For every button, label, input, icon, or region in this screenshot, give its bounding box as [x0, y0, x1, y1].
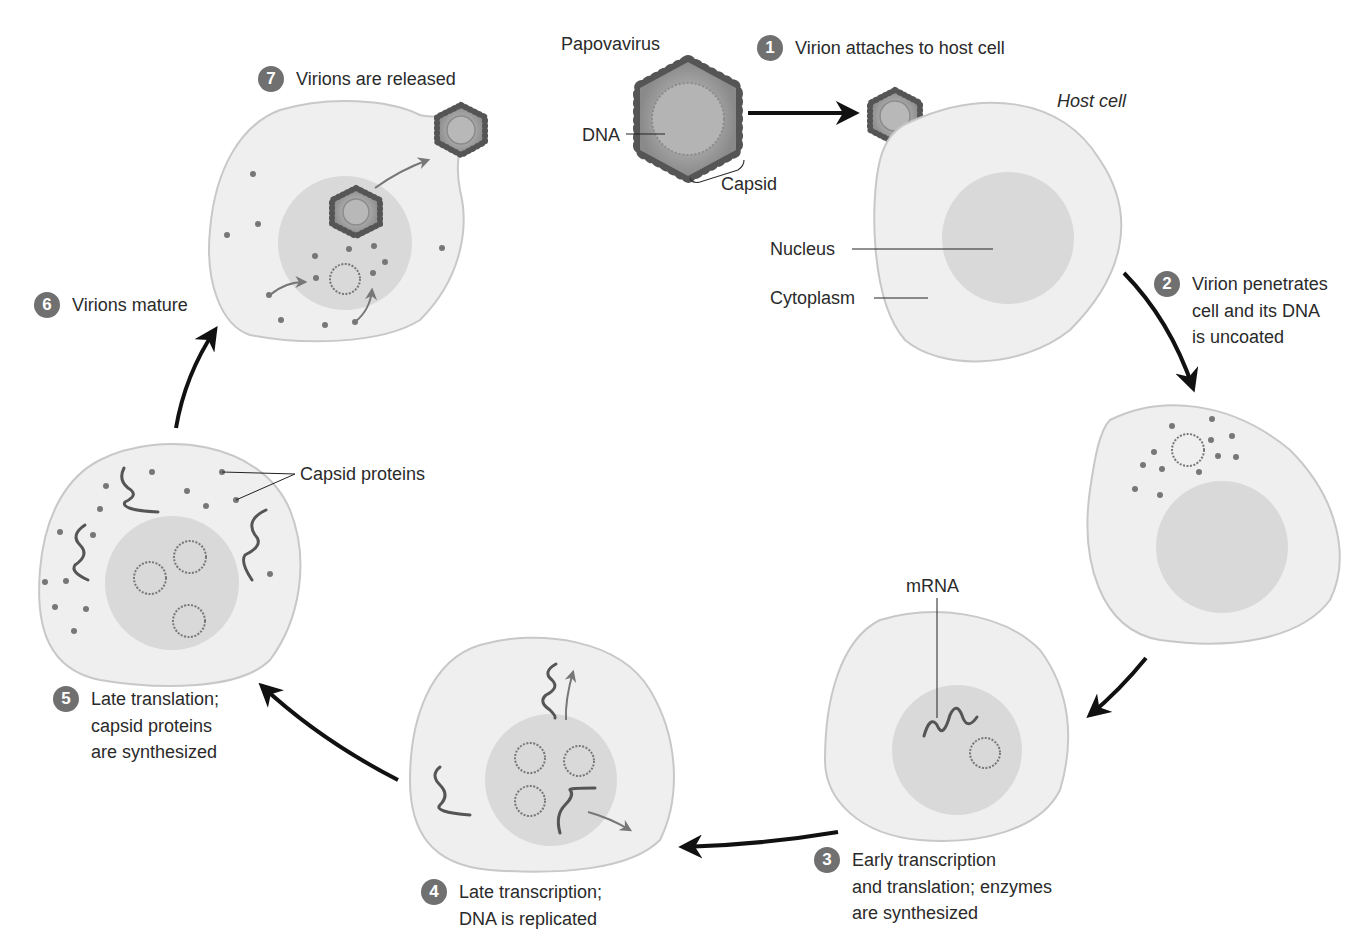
- step-6: 6 Virions mature: [34, 292, 188, 319]
- capsid-proteins-label: Capsid proteins: [300, 461, 425, 487]
- host-cell-label: Host cell: [1057, 88, 1126, 114]
- step-badge-icon: 1: [757, 35, 783, 61]
- nucleus-label: Nucleus: [770, 236, 835, 262]
- step-badge-icon: 2: [1154, 271, 1180, 297]
- step-badge-icon: 3: [814, 847, 840, 873]
- step-badge-icon: 6: [34, 292, 60, 318]
- cell-step-2: [1088, 405, 1340, 643]
- arrow-5-to-6: [176, 330, 215, 428]
- step-text: Late translation; capsid proteins are sy…: [91, 686, 219, 766]
- papovavirus-label: Papovavirus: [561, 31, 660, 57]
- step-2: 2 Virion penetrates cell and its DNA is …: [1154, 271, 1328, 351]
- step-text: Virion penetrates cell and its DNA is un…: [1192, 271, 1328, 351]
- cell-step-4: [410, 638, 674, 872]
- arrow-3-to-4: [683, 832, 838, 847]
- cell-step-3: [825, 598, 1068, 841]
- arrow-2-to-3: [1090, 658, 1146, 715]
- host-cell: [852, 103, 1121, 362]
- cell-step-5: [39, 444, 300, 686]
- step-text: Virions are released: [296, 66, 456, 93]
- step-1: 1 Virion attaches to host cell: [757, 35, 1005, 62]
- mrna-label: mRNA: [906, 573, 959, 599]
- papovavirus-virion: [626, 62, 744, 183]
- dna-label: DNA: [582, 122, 620, 148]
- step-7: 7 Virions are released: [258, 66, 456, 93]
- arrow-4-to-5: [262, 686, 398, 780]
- viral-replication-diagram: [0, 0, 1372, 949]
- step-4: 4 Late transcription; DNA is replicated: [421, 879, 602, 932]
- capsid-label: Capsid: [721, 171, 777, 197]
- cytoplasm-label: Cytoplasm: [770, 285, 855, 311]
- step-3: 3 Early transcription and translation; e…: [814, 847, 1052, 927]
- cell-step-6-7: [209, 101, 485, 341]
- step-text: Early transcription and translation; enz…: [852, 847, 1052, 927]
- step-5: 5 Late translation; capsid proteins are …: [53, 686, 219, 766]
- step-text: Virions mature: [72, 292, 188, 319]
- step-badge-icon: 4: [421, 879, 447, 905]
- step-text: Late transcription; DNA is replicated: [459, 879, 602, 932]
- step-badge-icon: 5: [53, 686, 79, 712]
- step-text: Virion attaches to host cell: [795, 35, 1005, 62]
- step-badge-icon: 7: [258, 66, 284, 92]
